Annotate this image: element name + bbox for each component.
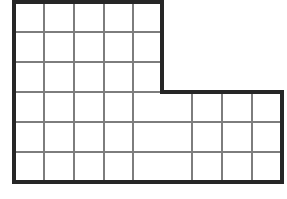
figure-canvas <box>0 0 287 199</box>
canvas-background <box>0 0 287 199</box>
l-shaped-grid-drawing <box>0 0 287 199</box>
